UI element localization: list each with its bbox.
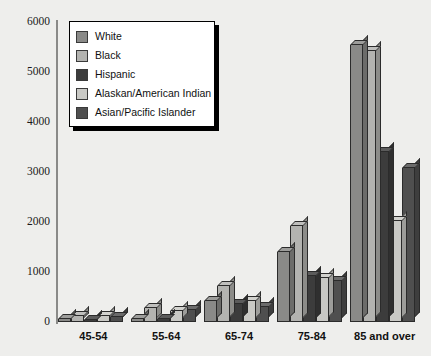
bar-side-face [217, 291, 222, 318]
x-axis-tick-label: 75-84 [298, 330, 326, 342]
x-axis-tick-labels: 45-5455-6465-7475-8485 and over [57, 330, 421, 350]
bar [131, 314, 144, 323]
legend-item: Alaskan/American Indian [76, 84, 208, 103]
y-axis-tick-label: 3000 [4, 166, 50, 178]
legend-item-label: Alaskan/American Indian [95, 88, 211, 99]
bar-group [275, 22, 348, 322]
bar-front-face [204, 301, 217, 323]
y-axis-tick-labels: 0100020003000400050006000 [0, 22, 50, 322]
legend-item: Black [76, 46, 208, 65]
legend-swatch [76, 69, 88, 81]
bar-front-face [277, 252, 290, 322]
bar-front-face [110, 317, 123, 322]
y-axis-tick-label: 5000 [4, 66, 50, 78]
bar-group [348, 22, 421, 322]
x-axis-tick-label: 45-54 [79, 330, 107, 342]
legend-item-label: Black [95, 50, 121, 61]
bar-front-face [131, 319, 144, 323]
legend-item-label: Hispanic [95, 69, 135, 80]
bar-front-face [157, 319, 170, 322]
bar [204, 296, 217, 323]
legend-item: Hispanic [76, 65, 208, 84]
x-axis-tick-label: 85 and over [354, 330, 415, 342]
bar-side-face [376, 41, 381, 317]
bar-side-face [256, 291, 261, 318]
bar-front-face [350, 45, 363, 323]
legend: WhiteBlackHispanicAlaskan/American India… [69, 21, 215, 127]
legend-item-label: Asian/Pacific Islander [95, 107, 195, 118]
legend-swatch [76, 31, 88, 43]
bar-side-face [303, 216, 308, 318]
y-axis-tick-label: 6000 [4, 16, 50, 28]
y-axis-tick-label: 0 [4, 316, 50, 328]
bar-side-face [269, 297, 274, 317]
x-axis-tick-label: 55-64 [152, 330, 180, 342]
bar [58, 314, 71, 322]
y-axis-tick-label: 4000 [4, 116, 50, 128]
legend-item: White [76, 27, 208, 46]
y-axis-tick-label: 2000 [4, 216, 50, 228]
bar-side-face [415, 158, 420, 317]
legend-swatch [76, 50, 88, 62]
bar-side-face [402, 211, 407, 318]
bar-side-face [363, 35, 368, 318]
y-axis-tick-label: 1000 [4, 266, 50, 278]
legend-item: Asian/Pacific Islander [76, 103, 208, 122]
legend-swatch [76, 107, 88, 119]
x-axis-tick-label: 65-74 [225, 330, 253, 342]
legend-swatch [76, 88, 88, 100]
bar [350, 40, 363, 323]
bar-side-face [290, 242, 295, 317]
bar [277, 247, 290, 322]
legend-item-label: White [95, 31, 122, 42]
bar-side-face [389, 142, 394, 317]
bar [84, 315, 97, 323]
bar-front-face [58, 319, 71, 322]
bar-chart: 0100020003000400050006000 45-5455-6465-7… [0, 0, 431, 356]
bar-front-face [84, 320, 97, 323]
